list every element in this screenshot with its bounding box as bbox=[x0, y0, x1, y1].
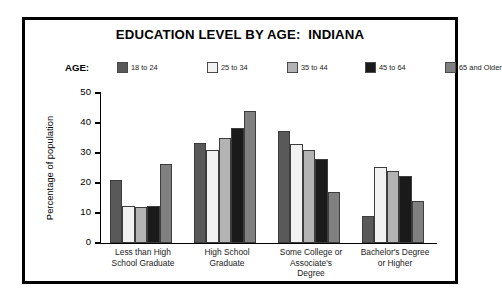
legend-swatch-icon bbox=[117, 62, 128, 73]
bar[interactable] bbox=[315, 159, 327, 243]
bar[interactable] bbox=[278, 131, 290, 244]
y-axis-tick-label: 30 bbox=[80, 146, 91, 157]
y-axis-tick-label: 10 bbox=[80, 206, 91, 217]
bar[interactable] bbox=[399, 176, 411, 244]
y-axis-title: Percentage of population bbox=[44, 93, 58, 243]
x-axis-group-label: Some College or Associate's Degree bbox=[269, 247, 353, 279]
bar[interactable] bbox=[135, 207, 147, 243]
y-axis-tick-label: 20 bbox=[80, 176, 91, 187]
legend-item-label: 35 to 44 bbox=[301, 63, 328, 72]
legend-item[interactable]: 18 to 24 bbox=[117, 60, 158, 74]
bar-group: Some College or Associate's Degree bbox=[269, 93, 353, 243]
bar[interactable] bbox=[206, 150, 218, 243]
bar-group: High School Graduate bbox=[185, 93, 269, 243]
legend-item-label: 65 and Older bbox=[459, 63, 502, 72]
bar-group: Less than High School Graduate bbox=[101, 93, 185, 243]
legend-title: AGE: bbox=[65, 62, 89, 73]
x-axis-group-label: High School Graduate bbox=[185, 247, 269, 268]
x-axis-group-label: Less than High School Graduate bbox=[101, 247, 185, 268]
bar[interactable] bbox=[303, 150, 315, 243]
chart-figure: EDUCATION LEVEL BY AGE: INDIANA AGE: 18 … bbox=[22, 17, 458, 284]
legend-item-label: 25 to 34 bbox=[221, 63, 248, 72]
x-axis-group-label: Bachelor's Degree or Higher bbox=[353, 247, 437, 268]
bar[interactable] bbox=[219, 138, 231, 243]
bar[interactable] bbox=[231, 128, 243, 244]
legend-item[interactable]: 45 to 64 bbox=[365, 60, 406, 74]
legend-swatch-icon bbox=[287, 62, 298, 73]
bar[interactable] bbox=[412, 201, 424, 243]
bar[interactable] bbox=[122, 206, 134, 244]
bar[interactable] bbox=[147, 206, 159, 244]
bar[interactable] bbox=[362, 216, 374, 243]
y-axis-tick-label: 50 bbox=[80, 86, 91, 97]
bar[interactable] bbox=[374, 167, 386, 244]
legend-item[interactable]: 35 to 44 bbox=[287, 60, 328, 74]
bar-group: Bachelor's Degree or Higher bbox=[353, 93, 437, 243]
y-axis-tick-label: 0 bbox=[86, 236, 91, 247]
legend-item[interactable]: 25 to 34 bbox=[207, 60, 248, 74]
legend-item-label: 18 to 24 bbox=[131, 63, 158, 72]
bar[interactable] bbox=[160, 164, 172, 244]
chart-legend: AGE: 18 to 2425 to 3435 to 4445 to 6465 … bbox=[65, 60, 449, 76]
legend-item-label: 45 to 64 bbox=[379, 63, 406, 72]
bar[interactable] bbox=[387, 171, 399, 243]
legend-swatch-icon bbox=[445, 62, 456, 73]
legend-swatch-icon bbox=[207, 62, 218, 73]
legend-swatch-icon bbox=[365, 62, 376, 73]
x-axis-line bbox=[100, 243, 437, 244]
plot-area: Percentage of population 01020304050Less… bbox=[101, 93, 437, 243]
bar[interactable] bbox=[290, 144, 302, 243]
bar[interactable] bbox=[194, 143, 206, 244]
bar[interactable] bbox=[328, 192, 340, 243]
y-axis-tick-label: 40 bbox=[80, 116, 91, 127]
bar[interactable] bbox=[110, 180, 122, 243]
chart-title: EDUCATION LEVEL BY AGE: INDIANA bbox=[25, 27, 455, 42]
bar[interactable] bbox=[244, 111, 256, 243]
legend-item[interactable]: 65 and Older bbox=[445, 60, 502, 74]
